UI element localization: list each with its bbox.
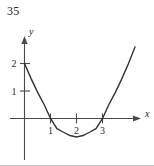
- y-tick-label-2: 2: [12, 58, 17, 69]
- parabola-graph: 2 1 1 2 3 y x: [0, 0, 154, 166]
- y-tick-label-1: 1: [12, 86, 17, 97]
- bottom-divider: [0, 165, 154, 166]
- y-axis-arrow-icon: [21, 36, 27, 44]
- x-axis-arrow-icon: [133, 115, 141, 121]
- x-axis-label: x: [144, 108, 150, 119]
- parabola-curve: [25, 47, 136, 137]
- x-tick-label-3: 3: [100, 125, 105, 136]
- x-tick-label-2: 2: [74, 125, 79, 136]
- x-tick-label-1: 1: [48, 125, 53, 136]
- figure-panel: 35 2 1 1 2 3 y x: [0, 0, 154, 166]
- y-axis-label: y: [28, 26, 34, 37]
